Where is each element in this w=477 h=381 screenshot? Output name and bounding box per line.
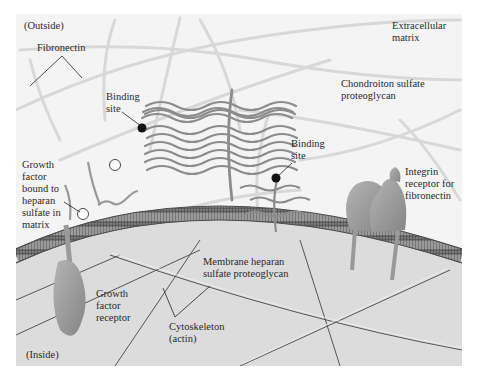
chondroitin-label: Chondroiton sulfate proteoglycan (341, 78, 425, 102)
growth-factor-2 (78, 209, 89, 220)
growth-factor-bound-label: Growth factor bound to heparan sulfate i… (22, 159, 61, 231)
binding-site-1-label: Binding site (106, 91, 140, 115)
growth-factor-receptor-label: Growth factor receptor (96, 288, 130, 324)
binding-site-2-label: Binding site (291, 138, 325, 162)
membrane-heparan-label: Membrane heparan sulfate proteoglycan (203, 256, 288, 280)
cytoskeleton-label: Cytoskeleton (actin) (169, 321, 224, 345)
integrin-label: Integrin receptor for fibronectin (405, 166, 454, 202)
extracellular-matrix-label: Extracellular matrix (392, 20, 446, 44)
growth-factor-1 (110, 160, 121, 171)
outside-label: (Outside) (24, 20, 64, 32)
inside-label: (Inside) (26, 349, 59, 361)
fibronectin-label: Fibronectin (37, 42, 85, 54)
